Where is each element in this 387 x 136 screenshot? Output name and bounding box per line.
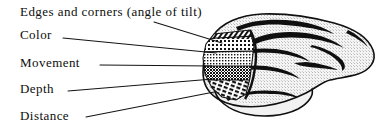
visual-cortex-diagram: Edges and corners (angle of tilt) Color …: [0, 0, 387, 136]
leader-lines: [63, 22, 222, 117]
label-distance: Distance: [20, 109, 69, 123]
label-depth: Depth: [20, 82, 54, 96]
leader-line-depth: [68, 79, 213, 91]
leader-line-distance: [86, 92, 214, 117]
label-color: Color: [20, 28, 52, 42]
label-edges-and-corners: Edges and corners (angle of tilt): [20, 5, 202, 19]
leader-line-edges-and-corners: [154, 22, 222, 43]
leader-line-color: [63, 38, 216, 53]
label-movement: Movement: [20, 56, 80, 70]
leader-line-movement: [100, 65, 212, 66]
band-movement: [196, 52, 258, 66]
